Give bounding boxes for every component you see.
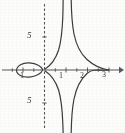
x-tick-label-3: 3 — [102, 71, 106, 79]
x-tick-label-negative-1: 1 — [20, 72, 24, 80]
curve-lower-right-branch — [71, 70, 108, 133]
x-tick-label-1: 1 — [59, 72, 63, 80]
curve-lower-left-branch — [45, 71, 63, 133]
curve-upper-left-branch — [45, 0, 63, 69]
curve-upper-right-branch — [71, 0, 108, 70]
plot-canvas — [0, 0, 125, 133]
y-tick-label-positive-5: 5 — [27, 31, 32, 40]
graph-figure: 5 5 1 1 2 3 — [0, 0, 125, 133]
y-tick-label-negative-5: 5 — [27, 96, 32, 105]
x-tick-label-2: 2 — [80, 72, 84, 80]
